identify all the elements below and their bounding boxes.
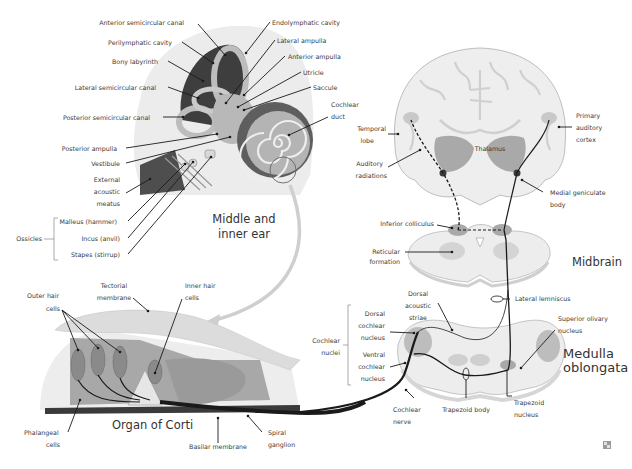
- label-cochlear-nerve-1: Cochlear: [393, 406, 421, 413]
- label-thalamus: Thalamus: [474, 145, 506, 152]
- label-posterior-ampulla: Posterior ampulla: [62, 145, 117, 153]
- label-ventral-cochlear-nucleus-2: cochlear: [358, 363, 385, 370]
- midbrain-shape: [408, 225, 550, 283]
- label-lateral-semicircular-canal: Lateral semicircular canal: [75, 84, 156, 91]
- label-posterior-semicircular-canal: Posterior semicircular canal: [63, 114, 150, 121]
- label-cochlear-duct-1: Cochlear: [331, 101, 359, 108]
- label-utricle: Utricle: [303, 69, 324, 76]
- label-reticular-formation-1: Reticular: [372, 248, 400, 255]
- label-superior-olivary-nucleus-2: nucleus: [558, 327, 582, 334]
- label-lateral-ampulla: Lateral ampulla: [277, 37, 326, 45]
- label-inner-hair-cells-1: Inner hair: [185, 282, 216, 289]
- label-trapezoid-nucleus-1: Trapezoid: [513, 399, 544, 407]
- label-spiral-ganglion-2: ganglion: [268, 441, 295, 449]
- label-ventral-cochlear-nucleus-1: Ventral: [363, 351, 386, 358]
- label-dorsal-cochlear-nucleus-3: nucleus: [361, 334, 385, 341]
- label-trapezoid-nucleus-2: nucleus: [514, 411, 538, 418]
- superior-olive-left: [448, 354, 468, 366]
- organ-of-corti-illustration: [40, 310, 365, 414]
- superior-olivary-nucleus-shape: [536, 330, 560, 362]
- title-middle-inner-ear-2: inner ear: [218, 227, 270, 241]
- auditory-pathway-diagram: Anterior semicircular canal Perilymphati…: [0, 0, 632, 469]
- label-vestibule: Vestibule: [91, 160, 120, 167]
- label-dorsal-cochlear-nucleus-2: cochlear: [358, 322, 385, 329]
- medulla-section: [398, 320, 565, 400]
- label-temporal-lobe-2: lobe: [361, 137, 375, 144]
- label-inferior-colliculus: Inferior colliculus: [380, 220, 434, 227]
- label-inner-hair-cells-2: cells: [185, 294, 199, 301]
- outer-hair-cell-1: [71, 349, 85, 381]
- brain-coronal-section: [394, 48, 565, 205]
- label-saccule: Saccule: [313, 84, 338, 91]
- label-primary-auditory-cortex-1: Primary: [576, 112, 601, 120]
- inner-ear-illustration: [134, 26, 314, 195]
- title-medulla-2: oblongata: [563, 360, 628, 375]
- label-external-acoustic-meatus-3: meatus: [96, 200, 120, 207]
- label-primary-auditory-cortex-3: cortex: [576, 136, 596, 143]
- corner-logo-icon: [603, 441, 611, 449]
- label-external-acoustic-meatus-1: External: [94, 176, 120, 183]
- lateral-lemniscus-marker: [491, 296, 503, 302]
- label-medial-geniculate-body-2: body: [550, 201, 566, 209]
- title-organ-of-corti: Organ of Corti: [112, 418, 193, 432]
- label-anterior-semicircular-canal: Anterior semicircular canal: [99, 19, 184, 26]
- label-tectorial-membrane-2: membrane: [97, 294, 132, 301]
- label-phalangeal-cells-1: Phalangeal: [24, 429, 59, 437]
- label-malleus: Malleus (hammer): [60, 218, 117, 225]
- title-middle-inner-ear-1: Middle and: [212, 212, 275, 226]
- cochlear-nuclei-bracket: [343, 305, 351, 385]
- label-spiral-ganglion-1: Spiral: [268, 429, 286, 437]
- zoom-arrow: [215, 185, 299, 320]
- label-temporal-lobe-1: Temporal: [356, 125, 386, 133]
- label-outer-hair-cells-1: Outer hair: [27, 292, 59, 299]
- label-reticular-formation-2: formation: [369, 258, 400, 265]
- label-bony-labyrinth: Bony labyrinth: [112, 58, 158, 66]
- label-external-acoustic-meatus-2: acoustic: [94, 188, 121, 195]
- label-dorsal-acoustic-striae-3: striae: [409, 314, 427, 321]
- label-cochlear-duct-2: duct: [331, 113, 345, 120]
- label-endolymphatic-cavity: Endolymphatic cavity: [272, 19, 340, 27]
- label-tectorial-membrane-1: Tectorial: [100, 282, 128, 289]
- title-medulla-1: Medulla: [563, 346, 614, 361]
- ossicles-bracket: [44, 218, 58, 260]
- superior-olive-mid: [470, 354, 490, 366]
- label-phalangeal-cells-2: cells: [46, 441, 60, 448]
- cochlea-inner: [246, 111, 310, 175]
- label-perilymphatic-cavity: Perilymphatic cavity: [108, 39, 172, 47]
- midbrain-section: [408, 224, 550, 286]
- label-incus: Incus (anvil): [81, 235, 120, 242]
- label-lateral-lemniscus: Lateral lemniscus: [515, 295, 570, 302]
- label-outer-hair-cells-2: cells: [46, 305, 60, 312]
- temporal-lobe-spot-left: [403, 112, 419, 124]
- label-dorsal-acoustic-striae-2: acoustic: [405, 302, 432, 309]
- label-ventral-cochlear-nucleus-3: nucleus: [361, 375, 385, 382]
- label-cochlear-nuclei-2: nuclei: [321, 349, 340, 356]
- label-ossicles: Ossicles: [16, 235, 42, 242]
- label-cochlear-nerve-2: nerve: [393, 418, 411, 425]
- label-cochlear-nuclei-1: Cochlear: [312, 337, 340, 344]
- label-superior-olivary-nucleus-1: Superior olivary: [558, 315, 608, 323]
- label-trapezoid-body: Trapezoid body: [441, 406, 490, 414]
- label-dorsal-cochlear-nucleus-1: Dorsal: [365, 310, 385, 317]
- label-basilar-membrane: Basilar membrane: [189, 443, 247, 450]
- label-medial-geniculate-body-1: Medial geniculate: [550, 189, 606, 197]
- label-dorsal-acoustic-striae-1: Dorsal: [408, 290, 428, 297]
- label-auditory-radiations-1: Auditory: [356, 160, 383, 168]
- label-primary-auditory-cortex-2: auditory: [576, 124, 603, 132]
- label-auditory-radiations-2: radiations: [356, 172, 387, 179]
- label-anterior-ampulla: Anterior ampulla: [288, 53, 341, 61]
- label-stapes: Stapes (stirrup): [71, 251, 120, 259]
- title-midbrain: Midbrain: [572, 255, 622, 269]
